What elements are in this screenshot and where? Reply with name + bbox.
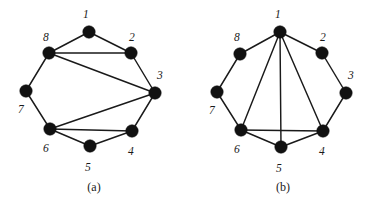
vertex-label-4: 4	[319, 146, 325, 158]
graph-edge-6-3	[50, 93, 155, 129]
graph-edge-1-2	[280, 32, 322, 53]
graph-canvas-b	[189, 0, 377, 180]
graph-edge-2-3	[131, 53, 155, 93]
graph-edge-6-7	[26, 91, 50, 129]
graph-edge-1-2	[89, 32, 131, 53]
vertex-label-5: 5	[85, 162, 91, 174]
graph-edge-5-6	[241, 130, 281, 147]
graph-vertex-6	[44, 123, 56, 135]
graph-edge-8-1	[240, 32, 280, 54]
panel-caption-b: (b)	[189, 181, 377, 193]
vertex-label-7: 7	[18, 104, 24, 116]
graph-vertex-1	[83, 26, 95, 38]
graph-edge-6-7	[217, 92, 241, 130]
graph-edge-2-3	[322, 53, 346, 93]
graph-edge-1-4	[280, 32, 323, 131]
vertex-label-8: 8	[234, 32, 240, 44]
graph-edge-7-8	[26, 53, 49, 91]
vertex-label-4: 4	[128, 146, 134, 158]
graph-vertex-7	[20, 85, 32, 97]
graph-edge-8-1	[49, 32, 89, 53]
vertex-label-6: 6	[43, 143, 49, 155]
graph-edge-6-4	[241, 130, 323, 131]
vertex-label-5: 5	[276, 163, 282, 175]
graph-vertex-4	[126, 125, 138, 137]
graph-edge-1-5	[280, 32, 281, 147]
vertex-label-3: 3	[348, 70, 354, 82]
vertex-label-2: 2	[129, 32, 135, 44]
graph-vertex-4	[317, 125, 329, 137]
graph-vertex-3	[340, 87, 352, 99]
graph-panel-a: 12345678(a)	[0, 0, 188, 201]
graph-vertex-7	[211, 86, 223, 98]
graph-vertex-2	[125, 47, 137, 59]
graph-vertex-5	[84, 140, 96, 152]
graph-edge-3-4	[323, 93, 346, 131]
graph-vertex-5	[275, 141, 287, 153]
panel-caption-a: (a)	[0, 181, 188, 193]
graph-vertex-6	[235, 124, 247, 136]
graph-edge-1-6	[241, 32, 280, 130]
figure-root: 12345678(a)12345678(b)	[0, 0, 377, 201]
graph-edge-3-4	[132, 93, 155, 131]
graph-vertex-8	[234, 48, 246, 60]
graph-vertex-1	[274, 26, 286, 38]
graph-edge-7-8	[217, 54, 240, 92]
vertex-group	[20, 26, 161, 152]
graph-edge-5-6	[50, 129, 90, 146]
graph-panel-b: 12345678(b)	[189, 0, 377, 201]
vertex-label-8: 8	[43, 32, 49, 44]
graph-edge-8-3	[49, 53, 155, 93]
graph-edge-4-5	[281, 131, 323, 147]
vertex-label-7: 7	[209, 105, 215, 117]
graph-vertex-3	[149, 87, 161, 99]
graph-vertex-2	[316, 47, 328, 59]
graph-canvas-a	[0, 0, 188, 180]
vertex-label-6: 6	[234, 144, 240, 156]
graph-vertex-8	[43, 47, 55, 59]
vertex-label-3: 3	[157, 70, 163, 82]
vertex-label-1: 1	[83, 9, 89, 21]
vertex-label-1: 1	[275, 9, 281, 21]
vertex-label-2: 2	[320, 32, 326, 44]
graph-edge-6-4	[50, 129, 132, 131]
graph-edge-4-5	[90, 131, 132, 146]
